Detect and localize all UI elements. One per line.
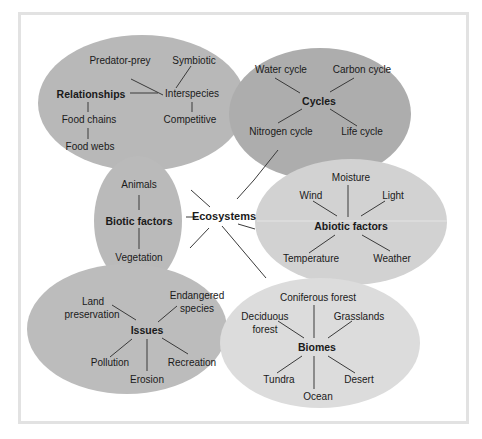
node-deciduous-forest: forest xyxy=(252,324,277,336)
node-vegetation: Vegetation xyxy=(115,252,162,264)
node-desert: Desert xyxy=(344,374,373,386)
node-pollution: Pollution xyxy=(91,357,129,369)
node-life-cycle: Life cycle xyxy=(341,126,383,138)
node-nitrogen-cycle: Nitrogen cycle xyxy=(249,126,312,138)
node-recreation: Recreation xyxy=(168,357,216,369)
node-carbon-cycle: Carbon cycle xyxy=(333,64,391,76)
node-endangered: Endangered xyxy=(170,290,225,302)
node-animals: Animals xyxy=(121,179,157,191)
hub-biomes: Biomes xyxy=(298,341,336,353)
node-coniferous-forest: Coniferous forest xyxy=(280,292,356,304)
node-food-webs: Food webs xyxy=(66,141,115,153)
node-species: species xyxy=(180,303,214,315)
node-food-chains: Food chains xyxy=(62,114,116,126)
node-weather: Weather xyxy=(373,253,411,265)
node-deciduous: Deciduous xyxy=(241,311,288,323)
node-tundra: Tundra xyxy=(263,374,294,386)
node-ocean: Ocean xyxy=(303,391,332,403)
center-ecosystems: Ecosystems xyxy=(192,210,256,222)
hub-biotic-factors: Biotic factors xyxy=(105,215,172,227)
node-symbiotic: Symbiotic xyxy=(172,55,215,67)
node-preservation: preservation xyxy=(64,309,119,321)
node-erosion: Erosion xyxy=(130,374,164,386)
node-land: Land xyxy=(82,296,104,308)
hub-issues: Issues xyxy=(131,324,164,336)
node-water-cycle: Water cycle xyxy=(255,64,307,76)
node-predator-prey: Predator-prey xyxy=(89,55,150,67)
hub-relationships: Relationships xyxy=(57,88,126,100)
node-temperature: Temperature xyxy=(283,253,339,265)
node-competitive: Competitive xyxy=(164,114,217,126)
node-wind: Wind xyxy=(300,190,323,202)
node-interspecies: Interspecies xyxy=(165,88,219,100)
issues-ellipse xyxy=(27,264,227,394)
node-light: Light xyxy=(382,190,404,202)
hub-cycles: Cycles xyxy=(302,95,336,107)
node-grasslands: Grasslands xyxy=(334,311,385,323)
hub-abiotic-factors: Abiotic factors xyxy=(314,220,388,232)
node-moisture: Moisture xyxy=(332,172,370,184)
